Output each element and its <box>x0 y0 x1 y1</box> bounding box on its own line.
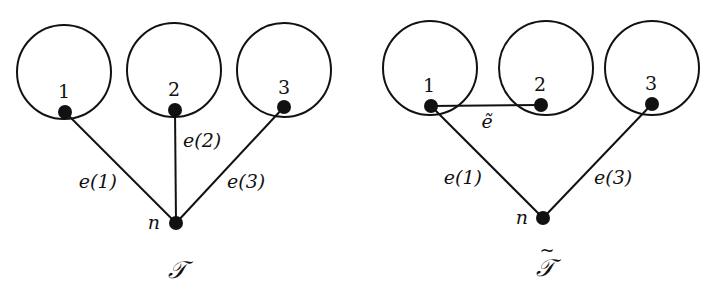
diagram-T <box>17 23 331 223</box>
root-node-n <box>536 211 550 225</box>
node-3 <box>277 100 291 114</box>
node-label-1: 1 <box>58 80 70 102</box>
subtree-circle-2 <box>127 23 221 117</box>
root-label-n: n <box>148 211 160 233</box>
caption-T: 𝒯 <box>168 256 194 284</box>
node-2 <box>168 103 182 117</box>
edge-e1 <box>65 112 176 223</box>
edge-label-e1: e(1) <box>79 170 117 192</box>
node-label-3: 3 <box>645 72 657 94</box>
edge-label-e2: e(2) <box>183 129 221 151</box>
diagram-canvas: 1 2 3 e(1) e(2) e(3) n 𝒯 1 2 3 ẽ e(1) e(… <box>0 0 715 300</box>
node-1 <box>424 99 438 113</box>
node-label-2: 2 <box>534 73 546 95</box>
edge-label-e1: e(1) <box>444 166 482 188</box>
tree-diagrams-svg: 1 2 3 e(1) e(2) e(3) n 𝒯 1 2 3 ẽ e(1) e(… <box>0 0 715 300</box>
edge-label-e-tilde: ẽ <box>481 110 492 132</box>
caption-tilde-accent: ~ <box>539 239 554 260</box>
edge-e-tilde <box>431 105 541 106</box>
root-node-n <box>169 216 183 230</box>
edge-e3 <box>176 107 284 223</box>
node-2 <box>534 98 548 112</box>
edge-e3 <box>543 104 652 218</box>
node-1 <box>58 105 72 119</box>
edge-label-e3: e(3) <box>227 170 265 192</box>
node-label-1: 1 <box>423 74 435 96</box>
node-3 <box>645 97 659 111</box>
subtree-circle-1 <box>17 25 111 119</box>
edge-e2 <box>175 110 176 223</box>
diagram-T-tilde-nodes <box>424 97 659 225</box>
node-label-2: 2 <box>168 78 180 100</box>
root-label-n: n <box>516 206 528 228</box>
diagram-T-tilde <box>383 21 699 218</box>
edge-label-e3: e(3) <box>594 166 632 188</box>
node-label-3: 3 <box>278 76 290 98</box>
